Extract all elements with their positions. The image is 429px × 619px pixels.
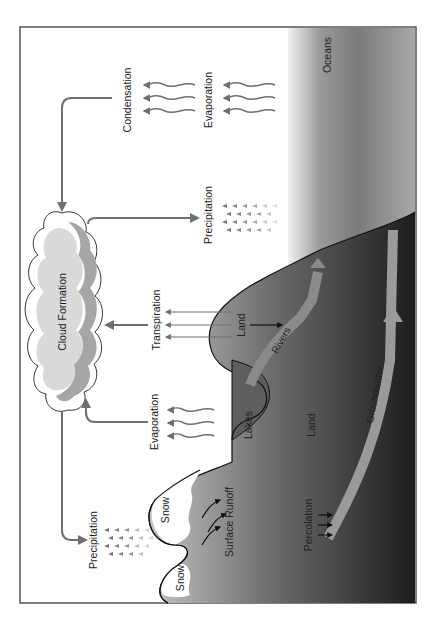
label-land-hill: Land	[235, 313, 247, 337]
label-condensation: Condensation	[121, 67, 133, 132]
label-evaporation-ocean: Evaporation	[202, 72, 214, 128]
label-precipitation-ocean: Precipitation	[202, 186, 214, 244]
label-lakes: Lakes	[242, 411, 254, 439]
label-oceans: Oceans	[321, 37, 333, 73]
label-evaporation-lake: Evaporation	[148, 394, 160, 450]
water-cycle-diagram: Condensation Evaporation Oceans Precipit…	[0, 0, 429, 619]
label-snow-1: Snow	[159, 496, 171, 523]
label-land-main: Land	[305, 413, 317, 437]
label-precipitation-mountain: Precipitation	[87, 511, 99, 569]
label-transpiration: Transpiration	[150, 289, 162, 350]
label-percolation: Percolation	[302, 499, 314, 552]
label-snow-2: Snow	[174, 564, 186, 591]
label-cloud-formation: Cloud Formation	[56, 273, 68, 351]
label-surface-runoff: Surface Runoff	[223, 487, 235, 557]
